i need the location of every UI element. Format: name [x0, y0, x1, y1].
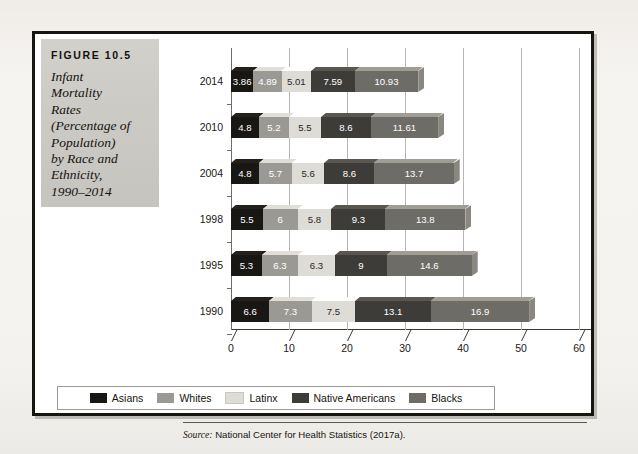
- bar-segment[interactable]: 4.8: [231, 117, 259, 138]
- y-axis-category-label: 2010: [200, 121, 223, 133]
- legend-label: Blacks: [431, 392, 462, 404]
- bar-segment[interactable]: 3.86: [231, 71, 253, 92]
- x-axis-tick: [579, 330, 585, 341]
- bar-segment[interactable]: 5.2: [259, 117, 289, 138]
- legend-swatch: [409, 393, 426, 403]
- bar-segment[interactable]: 13.7: [374, 163, 453, 184]
- figure-title-line: Rates: [51, 102, 151, 118]
- bar-end-cap: [438, 113, 444, 138]
- figure-title-line: (Percentage of: [51, 118, 151, 134]
- bar-segment[interactable]: 11.61: [371, 117, 438, 138]
- bar-segment[interactable]: 7.59: [311, 71, 355, 92]
- bar-segment[interactable]: 6.6: [231, 301, 269, 322]
- bar-segment[interactable]: 6: [263, 209, 298, 230]
- bar-segment[interactable]: 4.8: [231, 163, 259, 184]
- bar-end-cap: [454, 159, 460, 184]
- y-axis-category-label: 1990: [200, 305, 223, 317]
- y-axis-tick: [227, 242, 232, 243]
- source-note: Source: National Center for Health Stati…: [183, 429, 406, 440]
- figure-title-line: Population): [51, 135, 151, 151]
- bar-segment[interactable]: 13.8: [385, 209, 465, 230]
- source-text: National Center for Health Statistics (2…: [215, 429, 405, 440]
- legend-swatch: [157, 393, 174, 403]
- legend-item[interactable]: Latinx: [225, 392, 277, 404]
- chart-legend: AsiansWhitesLatinxNative AmericansBlacks: [57, 386, 495, 410]
- legend-label: Asians: [112, 392, 144, 404]
- bar-segment[interactable]: 6.3: [298, 255, 335, 276]
- bar-segment[interactable]: 9.3: [331, 209, 385, 230]
- bar-segment[interactable]: 7.3: [269, 301, 311, 322]
- figure-title-line: Mortality: [51, 85, 151, 101]
- x-axis-tick-label: 20: [341, 342, 353, 354]
- legend-label: Whites: [179, 392, 211, 404]
- y-axis-category-label: 1998: [200, 213, 223, 225]
- figure-title-line: 1990–2014: [51, 184, 151, 200]
- x-axis-labels: 0102030405060: [231, 342, 591, 362]
- x-axis-tick: [521, 330, 527, 341]
- bar-row: 4.85.25.58.611.61: [231, 117, 591, 138]
- bar-segment[interactable]: 5.3: [231, 255, 262, 276]
- bar-segment[interactable]: 5.5: [231, 209, 263, 230]
- bar-row: 4.85.75.68.613.7: [231, 163, 591, 184]
- y-axis-category-label: 1995: [200, 259, 223, 271]
- bar-end-cap: [472, 251, 478, 276]
- y-axis-tick: [227, 334, 232, 335]
- legend-swatch: [225, 392, 244, 404]
- bar-row: 5.36.36.3914.6: [231, 255, 591, 276]
- bar-segment[interactable]: 10.93: [355, 71, 418, 92]
- figure-title-line: Infant: [51, 69, 151, 85]
- bar-segment[interactable]: 7.5: [312, 301, 356, 322]
- legend-label: Latinx: [249, 392, 277, 404]
- y-axis-tick: [227, 104, 232, 105]
- bar-segment[interactable]: 14.6: [387, 255, 472, 276]
- x-axis-tick: [405, 330, 411, 341]
- legend-swatch: [90, 393, 107, 403]
- bar-segment[interactable]: 4.89: [253, 71, 281, 92]
- legend-item[interactable]: Blacks: [409, 392, 462, 404]
- legend-label: Native Americans: [314, 392, 396, 404]
- legend-item[interactable]: Native Americans: [292, 392, 396, 404]
- x-axis-tick-label: 0: [228, 342, 234, 354]
- bar-segment[interactable]: 8.6: [324, 163, 374, 184]
- bar-segment[interactable]: 5.6: [292, 163, 324, 184]
- y-axis-category-label: 2014: [200, 75, 223, 87]
- x-axis-tick-label: 50: [515, 342, 527, 354]
- x-axis-tick: [231, 330, 237, 341]
- legend-item[interactable]: Whites: [157, 392, 211, 404]
- y-axis-tick: [227, 150, 232, 151]
- x-axis-tick: [289, 330, 295, 341]
- bar-row: 5.565.89.313.8: [231, 209, 591, 230]
- x-axis-tick: [463, 330, 469, 341]
- figure-number: FIGURE 10.5: [51, 49, 151, 61]
- source-divider: [183, 422, 587, 423]
- y-axis-tick: [227, 196, 232, 197]
- bar-segment[interactable]: 13.1: [355, 301, 431, 322]
- y-axis-tick: [227, 288, 232, 289]
- figure-title: InfantMortalityRates(Percentage ofPopula…: [51, 69, 151, 200]
- bar-segment[interactable]: 8.6: [321, 117, 371, 138]
- bar-segment[interactable]: 5.01: [282, 71, 311, 92]
- figure-title-line: by Race and: [51, 151, 151, 167]
- y-axis-labels: 201420102004199819951990: [183, 40, 225, 340]
- bar-row: 3.864.895.017.5910.93: [231, 71, 591, 92]
- x-axis-tick-label: 10: [283, 342, 295, 354]
- y-axis-category-label: 2004: [200, 167, 223, 179]
- chart-grid-area: 3.864.895.017.5910.934.85.25.58.611.614.…: [231, 40, 591, 340]
- bar-end-cap: [418, 67, 424, 92]
- figure-frame: FIGURE 10.5 InfantMortalityRates(Percent…: [32, 31, 594, 416]
- legend-swatch: [292, 393, 309, 403]
- bar-segment[interactable]: 5.8: [298, 209, 332, 230]
- x-axis-tick-label: 30: [399, 342, 411, 354]
- bar-end-cap: [529, 297, 535, 322]
- figure-title-line: Ethnicity,: [51, 167, 151, 183]
- legend-item[interactable]: Asians: [90, 392, 144, 404]
- x-axis-tick-label: 60: [573, 342, 585, 354]
- bar-row: 6.67.37.513.116.9: [231, 301, 591, 322]
- x-axis-tick: [347, 330, 353, 341]
- bar-segment[interactable]: 6.3: [262, 255, 299, 276]
- bar-segment[interactable]: 5.7: [259, 163, 292, 184]
- bar-segment[interactable]: 9: [335, 255, 387, 276]
- bar-segment[interactable]: 16.9: [431, 301, 529, 322]
- bar-segment[interactable]: 5.5: [289, 117, 321, 138]
- x-axis-tick-label: 40: [457, 342, 469, 354]
